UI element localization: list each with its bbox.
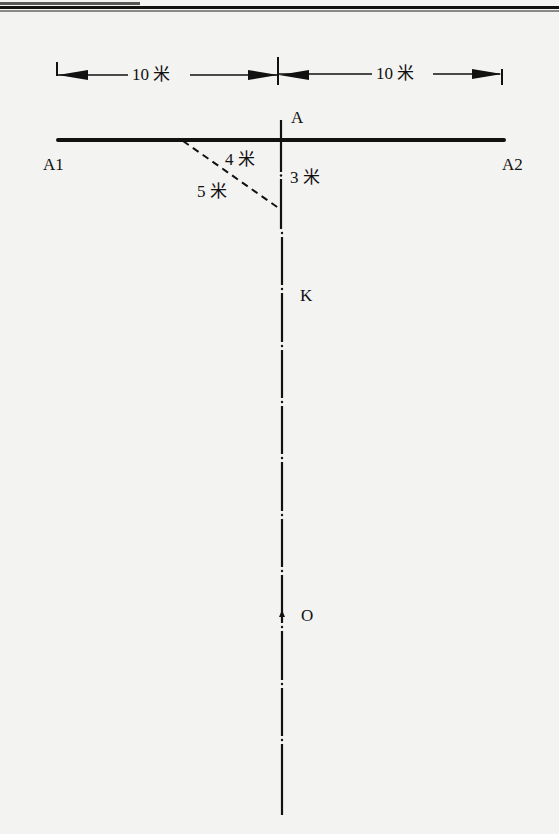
triangle-label-4m: 4 米 <box>225 151 255 168</box>
dimension-label-right: 10 米 <box>372 65 418 82</box>
arrow-left-icon <box>279 70 309 80</box>
arrow-left-icon <box>58 70 88 80</box>
dimension-label-left: 10 米 <box>128 66 174 83</box>
point-label-a: A <box>291 109 303 126</box>
triangle-label-5m: 5 米 <box>197 183 227 200</box>
triangle-label-3m: 3 米 <box>290 169 320 186</box>
point-o-marker-icon <box>279 610 285 617</box>
arrow-right-icon <box>472 69 502 79</box>
site-layout-diagram <box>0 0 559 834</box>
center-axis-line <box>281 120 282 815</box>
arrow-right-icon <box>248 70 278 80</box>
point-label-a2: A2 <box>502 156 523 173</box>
point-label-o: O <box>301 607 313 624</box>
point-label-k: K <box>300 287 312 304</box>
point-label-a1: A1 <box>43 156 64 173</box>
